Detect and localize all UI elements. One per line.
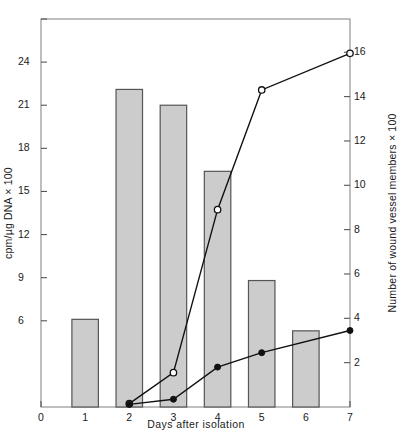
x-tick-3: 3 bbox=[163, 411, 183, 423]
x-tick-7: 7 bbox=[340, 411, 360, 423]
y-tick-right-14: 14 bbox=[354, 90, 366, 102]
y-tick-right-2: 2 bbox=[354, 356, 360, 368]
bar bbox=[248, 281, 274, 407]
y-tick-right-12: 12 bbox=[354, 134, 366, 146]
marker-filled-circle bbox=[215, 364, 221, 370]
y-tick-left-9: 9 bbox=[18, 271, 24, 283]
y-tick-right-4: 4 bbox=[354, 311, 360, 323]
marker-filled-circle bbox=[126, 401, 132, 407]
y-tick-right-10: 10 bbox=[354, 178, 366, 190]
x-tick-6: 6 bbox=[296, 411, 316, 423]
x-tick-5: 5 bbox=[252, 411, 272, 423]
y-axis-label-right: Number of wound vessel members × 100 bbox=[386, 114, 398, 313]
marker-filled-circle bbox=[347, 328, 353, 334]
x-axis-label: Days after isolation bbox=[0, 418, 392, 430]
marker-filled-circle bbox=[170, 396, 176, 402]
y-tick-left-24: 24 bbox=[18, 55, 30, 67]
y-tick-left-12: 12 bbox=[18, 228, 30, 240]
y-axis-label-left: cpm/µg DNA × 100 bbox=[2, 167, 14, 259]
y-tick-left-15: 15 bbox=[18, 184, 30, 196]
x-tick-2: 2 bbox=[119, 411, 139, 423]
bar bbox=[160, 105, 186, 407]
y-tick-right-16: 16 bbox=[354, 45, 366, 57]
x-tick-4: 4 bbox=[208, 411, 228, 423]
y-tick-right-8: 8 bbox=[354, 223, 360, 235]
bar-series bbox=[72, 89, 319, 407]
marker-open-circle bbox=[214, 206, 220, 212]
x-tick-1: 1 bbox=[75, 411, 95, 423]
y-tick-left-18: 18 bbox=[18, 141, 30, 153]
bar bbox=[72, 319, 98, 407]
y-tick-left-6: 6 bbox=[18, 314, 24, 326]
x-tick-0: 0 bbox=[31, 411, 51, 423]
marker-open-circle bbox=[259, 87, 265, 93]
y-tick-left-21: 21 bbox=[18, 98, 30, 110]
bar bbox=[116, 89, 142, 407]
y-tick-right-6: 6 bbox=[354, 267, 360, 279]
marker-open-circle bbox=[347, 50, 353, 56]
marker-open-circle bbox=[170, 369, 176, 375]
marker-filled-circle bbox=[259, 350, 265, 356]
